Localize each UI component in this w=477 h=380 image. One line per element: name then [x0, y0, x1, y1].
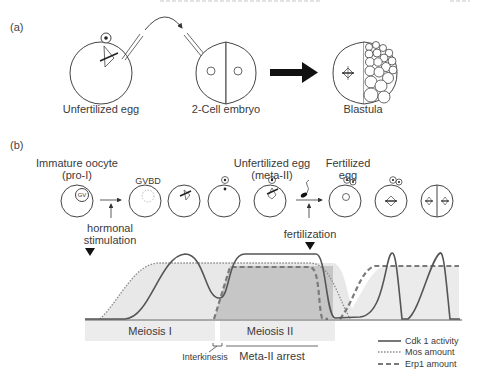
- two-cell-stage-icon: [421, 185, 453, 217]
- mitotic-egg-icon: [375, 177, 407, 217]
- label-immature-oocyte: Immature oocyte: [36, 158, 118, 169]
- label-stimulation: stimulation: [84, 235, 137, 246]
- label-gv: GV: [78, 192, 87, 198]
- label-unfertilized-egg: Unfertilized egg: [63, 104, 139, 115]
- big-arrow-icon: [270, 62, 318, 83]
- label-blastula: Blastula: [343, 104, 382, 115]
- legend-cdk1-label: Cdk 1 activity: [405, 337, 459, 346]
- label-hormonal: hormonal: [87, 223, 133, 234]
- diagram-canvas: [0, 0, 477, 380]
- label-gvbd: GVBD: [135, 177, 161, 186]
- label-meiosis-two: Meiosis II: [247, 326, 293, 337]
- label-meta-two: (meta-II): [251, 170, 293, 181]
- label-unfertilized-meta-two: Unfertilized egg: [234, 158, 310, 169]
- gvbd-oocyte-icon: [129, 185, 161, 217]
- label-fertilization: fertilization: [284, 229, 337, 240]
- immature-oocyte-icon: [61, 185, 93, 217]
- label-pro-one: (pro-I): [62, 170, 92, 181]
- label-meta-two-arrest: Meta-II arrest: [239, 351, 304, 362]
- label-meiosis-one: Meiosis I: [128, 326, 171, 337]
- label-interkinesis: Interkinesis: [182, 353, 228, 362]
- meta-one-oocyte-icon: [168, 185, 200, 217]
- legend-mos-label: Mos amount: [405, 348, 455, 357]
- fertilized-egg-icon: [329, 177, 361, 217]
- blastula-icon: [333, 42, 397, 105]
- polar-body-oocyte-icon: [208, 177, 240, 218]
- fertilization-marker-icon: [305, 242, 315, 250]
- sperm-icon: [300, 180, 309, 198]
- unfertilized-egg-icon: [70, 33, 132, 104]
- two-cell-embryo-icon: [196, 42, 256, 104]
- legend-erp1-label: Erp1 amount: [405, 360, 457, 369]
- label-two-cell-embryo: 2-Cell embryo: [192, 104, 260, 115]
- hormonal-stimulation-marker-icon: [85, 248, 95, 256]
- label-egg: egg: [339, 170, 357, 181]
- meta-two-egg-icon: [254, 177, 286, 218]
- label-fertilized: Fertilized: [326, 158, 371, 169]
